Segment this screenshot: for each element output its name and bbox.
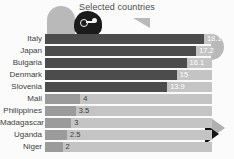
bar-value-label: 3 — [71, 118, 78, 128]
bar-row: Denmark15 — [0, 70, 234, 80]
bar-value-label: 17.2 — [196, 46, 214, 56]
bar-row: Madagascar3 — [0, 118, 234, 128]
bar-category-label: Madagascar — [0, 118, 45, 128]
bar-value-label: 2 — [63, 142, 70, 152]
dark-blob-icon — [74, 11, 102, 36]
bar-fill — [45, 106, 76, 116]
bar-value-label: 18.1 — [204, 34, 222, 44]
bar-category-label: Niger — [0, 142, 45, 152]
bar-row: Slovenia13.9 — [0, 82, 234, 92]
bar-track: 3.5 — [45, 106, 212, 116]
bar-value-label: 15 — [177, 70, 188, 80]
bar-category-label: Japan — [0, 46, 45, 56]
bar-category-label: Philippines — [0, 106, 45, 116]
bar-fill — [45, 142, 63, 152]
bar-row: Bulgaria16.1 — [0, 58, 234, 68]
bar-track: 17.2 — [45, 46, 212, 56]
bar-fill — [45, 130, 67, 140]
bar-track: 2.5 — [45, 130, 212, 140]
bar-fill — [45, 70, 177, 80]
chart-container: Selected countries Italy18.1Japan17.2Bul… — [0, 0, 234, 159]
bar-row: Japan17.2 — [0, 46, 234, 56]
bar-row: Philippines3.5 — [0, 106, 234, 116]
bar-fill — [45, 58, 187, 68]
bar-fill — [45, 82, 167, 92]
bar-track: 3 — [45, 118, 212, 128]
bar-category-label: Italy — [0, 34, 45, 44]
bar-category-label: Denmark — [0, 70, 45, 80]
bar-track: 15 — [45, 70, 212, 80]
bar-category-label: Uganda — [0, 130, 45, 140]
bar-track: 4 — [45, 94, 212, 104]
bar-track: 2 — [45, 142, 212, 152]
chart-title: Selected countries — [0, 2, 234, 12]
bar-value-label: 13.9 — [167, 82, 185, 92]
bar-category-label: Mali — [0, 94, 45, 104]
bar-track: 13.9 — [45, 82, 212, 92]
bar-fill — [45, 34, 204, 44]
bar-row: Niger2 — [0, 142, 234, 152]
bar-fill — [45, 118, 71, 128]
bar-rows: Italy18.1Japan17.2Bulgaria16.1Denmark15S… — [0, 34, 234, 154]
blob-dot-icon — [92, 18, 97, 23]
bar-track: 16.1 — [45, 58, 212, 68]
bar-row: Italy18.1 — [0, 34, 234, 44]
bar-track: 18.1 — [45, 34, 212, 44]
bar-value-label: 16.1 — [187, 58, 205, 68]
bar-category-label: Bulgaria — [0, 58, 45, 68]
bar-fill — [45, 46, 196, 56]
bar-value-label: 2.5 — [67, 130, 80, 140]
bar-category-label: Slovenia — [0, 82, 45, 92]
blob-stem-icon — [86, 21, 94, 23]
bar-fill — [45, 94, 80, 104]
gray-left-triangle-icon — [133, 18, 150, 28]
bar-value-label: 4 — [80, 94, 87, 104]
bar-value-label: 3.5 — [76, 106, 89, 116]
bar-row: Mali4 — [0, 94, 234, 104]
bar-row: Uganda2.5 — [0, 130, 234, 140]
blob-ring-icon — [80, 19, 88, 27]
